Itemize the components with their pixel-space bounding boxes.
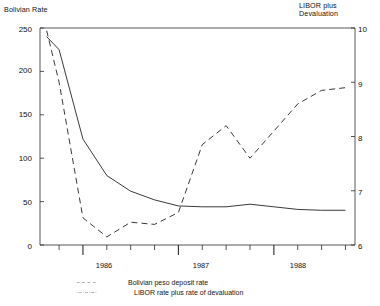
legend-swatch-dashed	[56, 282, 118, 283]
x-tick-1986: 1986	[84, 261, 124, 270]
chart-figure: Bolivian Rate LIBOR plus Devaluation 250…	[0, 0, 380, 306]
legend-label-bolivian: Bolivian peso deposit rate	[128, 279, 208, 286]
right-tick-6: 6	[358, 242, 380, 251]
left-tick-0: 0	[6, 242, 32, 251]
legend-swatch-dash-dot	[56, 292, 118, 293]
legend-item-bolivian: Bolivian peso deposit rate	[56, 278, 356, 287]
x-tick-1988: 1988	[278, 261, 318, 270]
legend-item-libor: LIBOR rate plus rate of devaluation	[56, 288, 356, 297]
left-tick-150: 150	[6, 110, 32, 119]
x-tick-1987: 1987	[181, 261, 221, 270]
left-tick-250: 250	[6, 25, 32, 34]
series-line-2	[47, 31, 346, 237]
left-axis-title: Bolivian Rate	[4, 6, 48, 14]
left-tick-50: 50	[6, 198, 32, 207]
right-axis-title: LIBOR plus Devaluation	[299, 2, 338, 19]
left-tick-200: 200	[6, 66, 32, 75]
right-tick-7: 7	[358, 188, 380, 197]
chart-legend: Bolivian peso deposit rate LIBOR rate pl…	[56, 278, 356, 298]
right-tick-8: 8	[358, 134, 380, 143]
series-line-1	[47, 37, 346, 211]
right-tick-10: 10	[358, 25, 380, 34]
data-series-layer	[47, 31, 346, 237]
legend-label-libor: LIBOR rate plus rate of devaluation	[128, 289, 243, 296]
right-tick-9: 9	[358, 80, 380, 89]
axes-frame	[40, 28, 355, 245]
left-tick-100: 100	[6, 154, 32, 163]
